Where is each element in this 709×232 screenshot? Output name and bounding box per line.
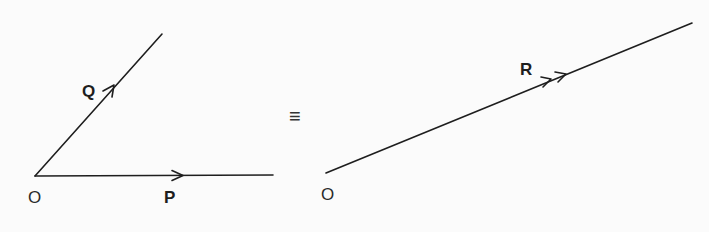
vector-q-label: Q <box>82 83 95 100</box>
diagram-lines <box>0 0 709 232</box>
origin-label-right: O <box>321 186 334 203</box>
vector-r-line <box>326 23 692 173</box>
origin-label-left: O <box>28 189 41 206</box>
vector-diagram: O P Q ≡ O R <box>0 0 709 232</box>
equivalence-symbol: ≡ <box>289 106 301 126</box>
vector-q-arrowhead <box>103 85 114 97</box>
vector-q-line <box>35 34 162 176</box>
vector-p-line <box>35 175 273 176</box>
vector-r-label: R <box>520 61 532 78</box>
vector-p-label: P <box>164 189 175 206</box>
